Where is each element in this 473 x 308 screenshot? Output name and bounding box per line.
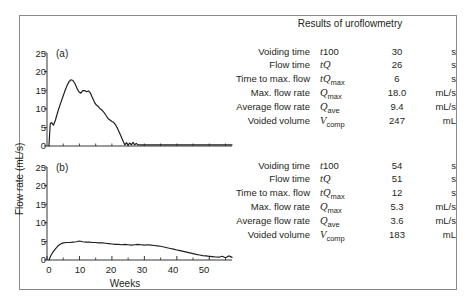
result-symbol: tQmax <box>320 73 374 87</box>
panel-a-ytick-0: 0 <box>26 141 46 151</box>
result-value: 247 <box>374 115 420 129</box>
result-row: Flow timetQ26s <box>212 59 456 72</box>
result-value: 5.3 <box>374 201 420 215</box>
result-label: Max. flow rate <box>212 201 320 215</box>
panel-b-ytick-15: 15 <box>26 200 46 210</box>
result-row: Flow timetQ51s <box>212 173 456 186</box>
result-symbol: t100 <box>320 160 374 173</box>
result-value: 183 <box>374 229 420 243</box>
result-unit: s <box>420 187 456 201</box>
result-unit: mL/s <box>420 101 456 115</box>
result-label: Average flow rate <box>212 215 320 229</box>
result-row: Max. flow rateQmax5.3mL/s <box>212 201 456 215</box>
result-row: Voided volumeVcomp183mL <box>212 229 456 243</box>
y-axis-label: Flow rate (mL/s) <box>14 143 25 215</box>
result-value: 18.0 <box>374 87 420 101</box>
chart-panel-a <box>44 53 232 146</box>
panel-b-ytick-5: 5 <box>26 237 46 247</box>
result-label: Voided volume <box>212 229 320 243</box>
result-value: 26 <box>374 59 420 72</box>
result-symbol: Qave <box>320 101 374 115</box>
result-row: Average flow rateQave9.4mL/s <box>212 101 456 115</box>
result-unit: s <box>420 59 456 72</box>
result-unit: mL <box>420 229 456 243</box>
panel-b-xtick-50: 50 <box>194 265 214 275</box>
x-axis-label: Weeks <box>65 278 185 289</box>
panel-b-xtick-10: 10 <box>70 265 90 275</box>
result-row: Time to max. flowtQmax6s <box>212 73 456 87</box>
panel-b-xtick-30: 30 <box>132 265 152 275</box>
panel-b-tag: (b) <box>56 162 68 173</box>
result-value: 51 <box>374 173 420 186</box>
result-label: Flow time <box>212 59 320 72</box>
result-symbol: tQ <box>320 59 374 72</box>
result-row: Voided volumeVcomp247mL <box>212 115 456 129</box>
results-table-panel-a: Voiding timet10030sFlow timetQ26sTime to… <box>212 46 456 129</box>
panel-a-ytick-20: 20 <box>26 67 46 77</box>
panel-b-ytick-20: 20 <box>26 181 46 191</box>
result-unit: mL/s <box>420 201 456 215</box>
result-value: 3.6 <box>374 215 420 229</box>
result-row: Voiding timet10054s <box>212 160 456 173</box>
result-value: 6 <box>374 73 420 87</box>
result-value: 30 <box>374 46 420 59</box>
uroflowmetry-figure: Flow rate (mL/s) 25 20 15 10 5 0 (a) 25 … <box>0 0 473 308</box>
result-value: 9.4 <box>374 101 420 115</box>
results-table-panel-b: Voiding timet10054sFlow timetQ51sTime to… <box>212 160 456 243</box>
result-unit: mL/s <box>420 215 456 229</box>
result-label: Flow time <box>212 173 320 186</box>
panel-b-ytick-0: 0 <box>26 255 46 265</box>
panel-b-xtick-20: 20 <box>101 265 121 275</box>
panel-b-xtick-40: 40 <box>163 265 183 275</box>
result-symbol: Qave <box>320 215 374 229</box>
result-unit: s <box>420 173 456 186</box>
result-label: Time to max. flow <box>212 73 320 87</box>
result-label: Time to max. flow <box>212 187 320 201</box>
result-unit: s <box>420 46 456 59</box>
result-label: Max. flow rate <box>212 87 320 101</box>
panel-a-ytick-15: 15 <box>26 86 46 96</box>
panel-a-ytick-10: 10 <box>26 104 46 114</box>
panel-a-ytick-5: 5 <box>26 123 46 133</box>
chart-panel-b <box>44 167 232 260</box>
result-row: Voiding timet10030s <box>212 46 456 59</box>
panel-a-ytick-25: 25 <box>26 49 46 59</box>
result-label: Voiding time <box>212 46 320 59</box>
result-unit: s <box>420 73 456 87</box>
panel-b-xtick-0: 0 <box>39 265 59 275</box>
result-symbol: Qmax <box>320 87 374 101</box>
result-label: Voiding time <box>212 160 320 173</box>
result-symbol: Vcomp <box>320 229 374 243</box>
result-label: Voided volume <box>212 115 320 129</box>
result-label: Average flow rate <box>212 101 320 115</box>
results-title: Results of uroflowmetry <box>250 18 450 29</box>
result-value: 54 <box>374 160 420 173</box>
result-row: Max. flow rateQmax18.0mL/s <box>212 87 456 101</box>
result-symbol: Vcomp <box>320 115 374 129</box>
result-row: Time to max. flowtQmax12s <box>212 187 456 201</box>
result-symbol: t100 <box>320 46 374 59</box>
result-symbol: tQ <box>320 173 374 186</box>
result-symbol: tQmax <box>320 187 374 201</box>
result-symbol: Qmax <box>320 201 374 215</box>
panel-b-ytick-10: 10 <box>26 218 46 228</box>
panel-a-tag: (a) <box>56 48 68 59</box>
result-unit: s <box>420 160 456 173</box>
panel-b-ytick-25: 25 <box>26 163 46 173</box>
result-unit: mL <box>420 115 456 129</box>
result-row: Average flow rateQave3.6mL/s <box>212 215 456 229</box>
result-unit: mL/s <box>420 87 456 101</box>
result-value: 12 <box>374 187 420 201</box>
